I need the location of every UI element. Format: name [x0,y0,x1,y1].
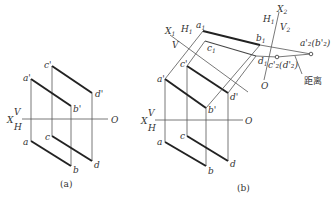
v2-label: V2 [280,22,291,33]
label-d: d [230,159,236,169]
axis-v-label: V [148,108,156,118]
label-b1: b1 [256,33,266,44]
distance-annotation: 距离 [304,75,322,86]
point-c2d2 [275,55,279,59]
label-a1: a1 [196,20,205,31]
segment-cd-top [187,136,228,161]
segment-cd-front [52,66,92,93]
label-b-prime: b' [208,105,216,115]
axis-h-label: H [13,122,22,132]
label-c-prime: c' [44,60,52,70]
axis-v-label: V [14,107,22,117]
aux2-distance-line [277,54,311,57]
label-d: d [94,160,100,170]
label-b: b [208,166,214,176]
label-d-prime: d' [230,92,238,102]
label-d-prime: d' [95,89,103,99]
label-a-prime: a' [157,74,165,84]
axis-o-label: O [111,115,119,125]
panel-b: X V H O X1 H1 V a1 b1 c1 d1 X2 H1 [140,4,331,193]
label-d1: d1 [258,56,268,67]
label-a2b2: a'₂(b'₂) [300,38,331,48]
caption-b: (b) [237,183,250,193]
x2-label: X2 [276,4,287,15]
point-a2b2 [309,52,313,56]
label-a: a [23,137,28,147]
segment-ab-top [165,142,206,166]
descriptive-geometry-figure: X V H O a' b' c' d' a b c d (a) X V H O [0,0,335,199]
segment-ab-front [165,79,206,108]
axis-h-label: H [147,123,156,133]
label-a-prime: a' [23,73,31,83]
aux-connector-c [187,41,205,66]
h1-label-axis2: H1 [262,14,275,25]
label-c2d2: c'₂(d'₂) [268,60,298,70]
caption-a: (a) [60,179,72,189]
label-a: a [157,137,162,147]
axis-x-label: X [6,115,14,125]
label-b-prime: b' [73,104,81,114]
h1-label-axis1: H1 [180,24,193,35]
panel-a: X V H O a' b' c' d' a b c d (a) [6,60,119,189]
label-b: b [73,165,79,175]
label-c: c [180,131,185,141]
axis-x-label: X [140,116,148,126]
segment-ab-front [31,79,71,106]
axis2-o-label: O [261,81,269,91]
label-c-prime: c' [180,59,188,69]
x1-label: X1 [164,26,175,37]
axis-o-label: O [245,116,253,126]
label-c: c [45,132,50,142]
label-c1: c1 [207,43,216,54]
